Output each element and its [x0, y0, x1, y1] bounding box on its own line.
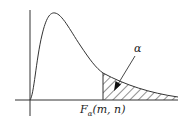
alpha-label: α [134, 42, 141, 55]
critical-value-label: Fα(m, n) [80, 103, 125, 118]
critical-value-main: F [80, 103, 88, 116]
critical-value-args: (m, n) [92, 103, 125, 116]
alpha-arrow [118, 56, 135, 84]
tail-region-hatch [103, 73, 178, 100]
